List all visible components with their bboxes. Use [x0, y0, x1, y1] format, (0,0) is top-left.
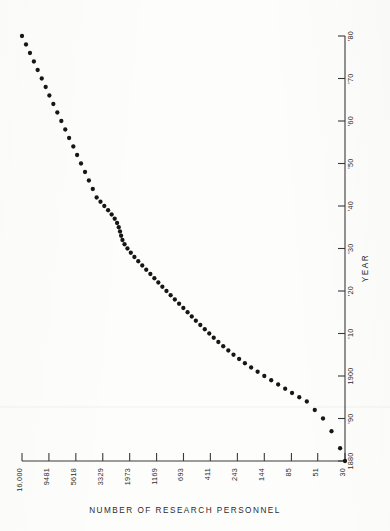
value-tick-label: 144 — [257, 468, 266, 481]
data-point — [190, 314, 194, 318]
data-points — [20, 34, 347, 463]
data-point — [231, 353, 235, 357]
data-point — [132, 255, 136, 259]
data-point — [255, 370, 259, 374]
value-tick-label: 1169 — [150, 468, 159, 485]
data-point — [32, 59, 36, 63]
year-tick-label: '90 — [346, 413, 355, 423]
data-point — [28, 51, 32, 55]
data-point — [115, 221, 119, 225]
data-point — [117, 225, 121, 229]
year-tick-label: 1900 — [346, 367, 355, 384]
year-tick-label: '80 — [346, 31, 355, 41]
value-tick-label: 51 — [311, 468, 320, 477]
data-point — [276, 382, 280, 386]
value-tick-label: 693 — [176, 468, 185, 481]
data-point — [207, 331, 211, 335]
data-point — [168, 293, 172, 297]
data-point — [120, 238, 124, 242]
year-tick-label: '30 — [346, 243, 355, 253]
value-tick-label: 243 — [230, 468, 239, 481]
data-point — [221, 344, 225, 348]
data-point — [313, 408, 317, 412]
data-point — [122, 242, 126, 246]
year-axis-ticks — [338, 36, 345, 461]
data-point — [36, 68, 40, 72]
year-axis-title: YEAR — [361, 254, 370, 282]
value-axis-title: NUMBER OF RESEARCH PERSONNEL — [89, 506, 281, 515]
data-point — [185, 310, 189, 314]
data-point — [203, 327, 207, 331]
data-point — [262, 374, 266, 378]
data-point — [212, 336, 216, 340]
data-point — [343, 459, 347, 463]
data-point — [119, 234, 123, 238]
data-point — [305, 399, 309, 403]
data-point — [136, 259, 140, 263]
data-point — [148, 272, 152, 276]
axis-lines — [22, 36, 345, 461]
value-tick-label: 5618 — [69, 468, 78, 485]
data-point — [216, 340, 220, 344]
year-tick-label: '70 — [346, 73, 355, 83]
data-point — [226, 348, 230, 352]
data-point — [194, 319, 198, 323]
value-tick-label: 85 — [284, 468, 293, 477]
data-point — [243, 361, 247, 365]
data-point — [173, 297, 177, 301]
data-point — [118, 229, 122, 233]
data-point — [125, 246, 129, 250]
data-point — [59, 119, 63, 123]
data-point — [63, 127, 67, 131]
value-tick-label: 3329 — [96, 468, 105, 485]
year-tick-label: 1880 — [346, 452, 355, 469]
data-point — [329, 429, 333, 433]
data-point — [297, 395, 301, 399]
data-point — [44, 85, 48, 89]
data-point — [113, 217, 117, 221]
data-point — [290, 391, 294, 395]
data-point — [144, 268, 148, 272]
data-point — [94, 195, 98, 199]
data-point — [140, 263, 144, 267]
value-tick-label: 16,000 — [15, 468, 24, 492]
data-point — [20, 34, 24, 38]
data-point — [198, 323, 202, 327]
data-point — [269, 378, 273, 382]
data-point — [160, 285, 164, 289]
data-point — [55, 110, 59, 114]
data-point — [83, 170, 87, 174]
data-point — [156, 280, 160, 284]
year-tick-label: '50 — [346, 158, 355, 168]
data-point — [40, 76, 44, 80]
data-point — [177, 302, 181, 306]
year-tick-label: '40 — [346, 201, 355, 211]
data-point — [249, 365, 253, 369]
data-point — [102, 204, 106, 208]
data-point — [110, 212, 114, 216]
data-point — [129, 251, 133, 255]
data-point — [71, 144, 75, 148]
figure-canvas: 16,0009481561833291973116969341124314485… — [0, 0, 390, 531]
data-point — [51, 102, 55, 106]
year-axis-tick-labels: 1880'901900'10'20'30'40'50'60'70'80 — [346, 31, 355, 470]
data-point — [47, 93, 51, 97]
year-tick-label: '20 — [346, 286, 355, 296]
data-point — [79, 161, 83, 165]
value-axis-ticks — [22, 453, 345, 461]
data-point — [164, 289, 168, 293]
value-axis-tick-labels: 16,0009481561833291973116969341124314485… — [15, 468, 347, 492]
value-tick-label: 9481 — [42, 468, 51, 485]
chart-svg: 16,0009481561833291973116969341124314485… — [0, 0, 390, 531]
data-point — [283, 387, 287, 391]
data-point — [87, 178, 91, 182]
year-tick-label: '60 — [346, 116, 355, 126]
data-point — [24, 42, 28, 46]
data-point — [98, 200, 102, 204]
value-tick-label: 411 — [203, 468, 212, 480]
data-point — [338, 446, 342, 450]
data-point — [181, 306, 185, 310]
data-point — [106, 208, 110, 212]
data-point — [75, 153, 79, 157]
data-point — [237, 357, 241, 361]
